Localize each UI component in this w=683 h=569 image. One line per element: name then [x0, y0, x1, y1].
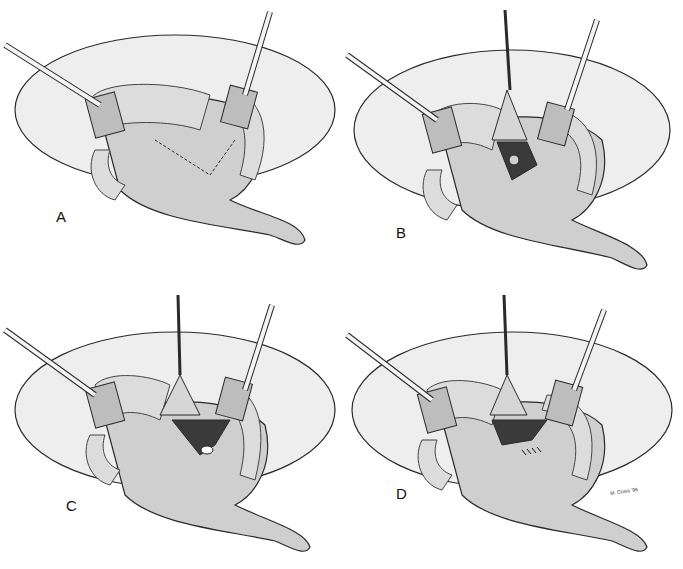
panel-label-c: C — [66, 497, 77, 514]
kidney-illustration-d — [342, 285, 683, 569]
panel-b: B — [342, 0, 683, 284]
panel-d: D M. Cross '96 — [342, 285, 683, 569]
kidney-illustration-c — [0, 285, 341, 569]
panel-label-b: B — [396, 224, 406, 241]
panel-a: A — [0, 0, 341, 284]
panel-c: C — [0, 285, 341, 569]
kidney-illustration-a — [0, 0, 341, 284]
kidney-illustration-b — [342, 0, 683, 284]
panel-label-d: D — [396, 485, 407, 502]
panel-label-a: A — [56, 208, 66, 225]
